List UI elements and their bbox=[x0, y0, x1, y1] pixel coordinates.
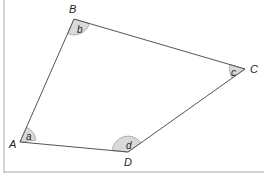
quadrilateral-outline bbox=[20, 19, 245, 152]
vertex-label-b: B bbox=[69, 3, 76, 15]
quadrilateral-diagram: A B C D a b c d bbox=[0, 0, 264, 177]
angle-label-d: d bbox=[126, 140, 132, 151]
angle-label-a: a bbox=[26, 131, 32, 142]
angle-label-c: c bbox=[231, 67, 236, 78]
angle-label-b: b bbox=[77, 24, 83, 35]
vertex-label-c: C bbox=[250, 63, 258, 75]
vertex-label-a: A bbox=[8, 138, 16, 150]
vertex-label-d: D bbox=[124, 156, 132, 168]
